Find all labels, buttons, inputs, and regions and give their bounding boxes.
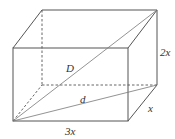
label-length: 3x (64, 125, 76, 137)
label-depth: x (147, 102, 153, 114)
edge-top-left-depth (13, 10, 42, 48)
hidden-edge-bottom-left-depth (13, 85, 42, 121)
label-d: d (80, 93, 86, 105)
label-D: D (65, 62, 74, 74)
label-height: 2x (160, 46, 171, 58)
prism-diagram: D d 2x x 3x (0, 0, 175, 139)
